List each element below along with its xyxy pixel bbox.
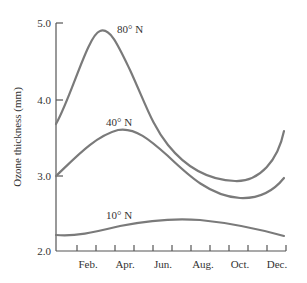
x-label-feb: Feb. xyxy=(78,258,98,270)
series-10n-label: 10° N xyxy=(106,209,132,221)
y-tick-2: 2.0 xyxy=(37,245,51,257)
axes xyxy=(56,23,286,251)
y-tick-4: 4.0 xyxy=(37,94,51,106)
series-10n-line xyxy=(56,219,284,236)
x-label-jun: Jun. xyxy=(154,258,172,270)
series-40n-label: 40° N xyxy=(106,116,132,128)
ozone-chart: 5.0 4.0 3.0 2.0 Feb. Apr. Jun. Aug. Oct.… xyxy=(0,0,307,283)
x-label-apr: Apr. xyxy=(115,258,135,270)
x-label-oct: Oct. xyxy=(231,258,250,270)
y-axis-title: Ozone thickness (mm) xyxy=(11,87,24,187)
series-40n-line xyxy=(56,130,284,198)
y-tick-5: 5.0 xyxy=(37,17,51,29)
series-80n-label: 80° N xyxy=(117,23,143,35)
y-tick-3: 3.0 xyxy=(37,170,51,182)
x-label-dec: Dec. xyxy=(267,258,288,270)
x-label-aug: Aug. xyxy=(192,258,214,270)
